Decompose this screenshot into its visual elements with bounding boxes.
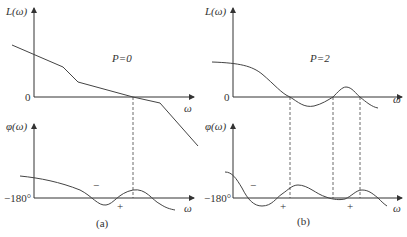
panel-b-omega-label: ω: [393, 93, 401, 105]
panel-b-plus-sign-1: +: [280, 200, 286, 212]
panel-b-l-axis-label: L(ω): [204, 5, 227, 18]
panel-b-phase-omega-label: ω: [393, 202, 401, 214]
panel-b-param-label: P=2: [309, 52, 330, 64]
panel-b-caption: (b): [297, 215, 310, 228]
panel-a-magnitude-curve: [12, 45, 198, 146]
panel-b-zero-label: 0: [224, 91, 230, 103]
panel-b-magnitude-curve: [212, 62, 378, 108]
panel-a-l-axis-label: L(ω): [5, 5, 28, 18]
panel-a-phi-axis-label: φ(ω): [6, 120, 28, 133]
panel-b-minus180-label: −180°: [204, 192, 231, 204]
panel-b-minus-sign: −: [250, 179, 256, 191]
panel-b-plus-sign-2: +: [347, 200, 353, 212]
panel-a-minus-sign: −: [93, 179, 99, 191]
panel-b-phase-plot: φ(ω) −180° ω − + +: [204, 120, 402, 214]
panel-a-omega-label: ω: [184, 102, 192, 114]
panel-a-phase-omega-label: ω: [184, 202, 192, 214]
panel-a: L(ω) 0 ω P=0 φ(ω) −180° ω − + (a): [4, 5, 198, 230]
panel-a-minus180-label: −180°: [4, 192, 31, 204]
panel-b-phi-axis-label: φ(ω): [205, 120, 227, 133]
panel-a-zero-label: 0: [25, 91, 31, 103]
panel-a-param-label: P=0: [111, 52, 132, 64]
panel-a-caption: (a): [96, 217, 109, 230]
panel-b: L(ω) 0 ω P=2 φ(ω) −180° ω − + + (b): [204, 5, 402, 228]
panel-a-plus-sign: +: [117, 200, 123, 212]
panel-a-phase-plot: φ(ω) −180° ω − +: [4, 120, 194, 214]
panel-b-magnitude-plot: L(ω) 0 ω P=2: [204, 5, 402, 108]
bode-diagram-figure: L(ω) 0 ω P=0 φ(ω) −180° ω − + (a) L(ω) 0: [0, 0, 407, 237]
